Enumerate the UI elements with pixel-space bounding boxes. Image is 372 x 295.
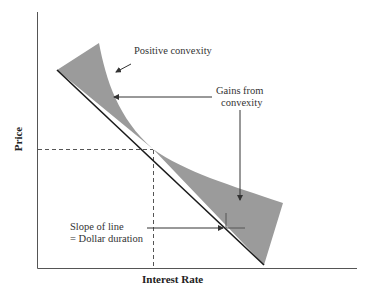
- convexity-gain-area-right: [153, 149, 283, 265]
- gains-from-convexity-label-line1: Gains from: [216, 85, 264, 97]
- gains-from-convexity-label-line2: convexity: [221, 97, 262, 109]
- slope-label-line2: = Dollar duration: [70, 233, 143, 245]
- positive-convexity-arrow: [116, 64, 131, 72]
- y-axis-title: Price: [12, 127, 24, 151]
- x-axis-title: Interest Rate: [142, 273, 203, 285]
- convexity-gain-area-left: [57, 43, 153, 149]
- slope-label-line1: Slope of line: [70, 221, 124, 233]
- positive-convexity-label: Positive convexity: [134, 45, 212, 57]
